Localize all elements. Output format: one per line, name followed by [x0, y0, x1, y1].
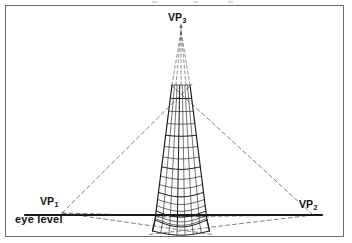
- perspective-figure: VP1 VP2 VP3 eye level: [0, 0, 352, 243]
- eye-level-label: eye level: [15, 214, 63, 225]
- vp3-label: VP3: [168, 12, 186, 23]
- vp1-label: VP1: [40, 196, 58, 207]
- construction-lines-to-vp1-vp2: [62, 84, 313, 235]
- vp2-label: VP2: [299, 199, 317, 210]
- construction-lines-to-vp3: [172, 24, 190, 86]
- tower-wireframe: [153, 85, 210, 235]
